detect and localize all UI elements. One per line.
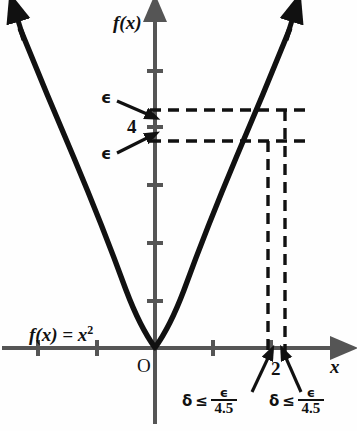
y-axis-label: f(x) [113, 13, 141, 32]
delta-inequality-left: δ ≤ ϵ 4.5 [182, 386, 237, 417]
relation-symbol-right: ≤ [282, 394, 295, 409]
delta-symbol-left: δ [182, 394, 192, 409]
delta-fraction-numerator-left: ϵ [218, 386, 230, 399]
curve-arrow-left [17, 17, 24, 40]
origin-label: O [137, 356, 151, 375]
delta-symbol-right: δ [269, 394, 279, 409]
x-axis-label: x [330, 357, 340, 376]
delta-band-lines [268, 110, 285, 356]
delta-fraction-denominator-right: 4.5 [300, 401, 323, 416]
delta-inequality-right: δ ≤ ϵ 4.5 [269, 386, 324, 417]
curve-arrow-right [286, 17, 293, 40]
x-tick-2-label: 2 [271, 359, 281, 378]
arrow-lower-epsilon [117, 138, 147, 153]
figure-canvas [0, 0, 357, 431]
curve-equation-label: f(x) = x2 [29, 324, 93, 344]
delta-fraction-numerator-right: ϵ [305, 386, 317, 399]
curve-equation-exponent: 2 [87, 323, 93, 337]
delta-fraction-right: ϵ 4.5 [298, 386, 324, 417]
epsilon-lower-label: ϵ [101, 146, 111, 162]
y-tick-4-label: 4 [127, 117, 137, 136]
relation-symbol-left: ≤ [195, 394, 208, 409]
epsilon-delta-figure: f(x) x ϵ ϵ 4 O 2 f(x) = x2 δ ≤ ϵ 4.5 δ ≤… [0, 0, 357, 431]
arrow-delta-left [252, 358, 268, 392]
arrow-upper-epsilon [117, 101, 147, 114]
epsilon-band-lines [150, 110, 312, 141]
delta-fraction-left: ϵ 4.5 [211, 386, 237, 417]
epsilon-upper-label: ϵ [101, 90, 111, 106]
delta-fraction-denominator-left: 4.5 [213, 401, 236, 416]
curve-equation-text: f(x) = x [29, 324, 87, 345]
